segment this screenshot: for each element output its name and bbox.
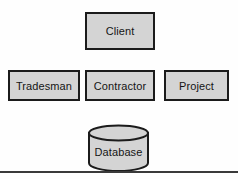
node-database[interactable]: Database — [88, 125, 149, 171]
node-client[interactable]: Client — [85, 12, 155, 50]
node-database-label: Database — [88, 125, 149, 171]
node-project-label: Project — [179, 80, 214, 92]
node-client-label: Client — [106, 25, 135, 37]
diagram-canvas: Client Tradesman Contractor Project Data… — [0, 0, 238, 179]
node-project[interactable]: Project — [164, 70, 229, 101]
node-contractor-label: Contractor — [94, 80, 146, 92]
bottom-divider — [0, 171, 238, 173]
node-contractor[interactable]: Contractor — [85, 70, 155, 101]
node-tradesman[interactable]: Tradesman — [8, 70, 80, 101]
node-tradesman-label: Tradesman — [16, 80, 72, 92]
